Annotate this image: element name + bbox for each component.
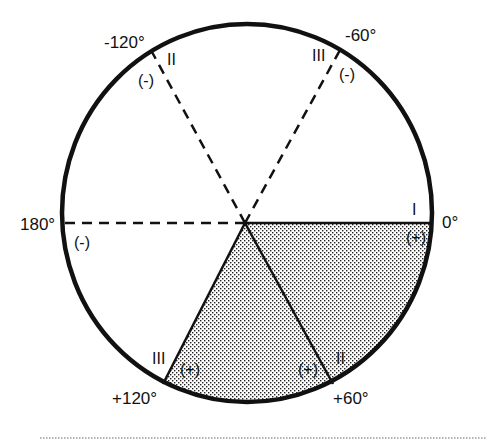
sign-label-180: (-) bbox=[74, 234, 90, 251]
phasor-circle-diagram: -120° -60° 180° 0° +120° +60° II III I I… bbox=[0, 0, 486, 440]
line-minus-120 bbox=[152, 52, 245, 223]
angle-label-180: 180° bbox=[20, 215, 55, 234]
sign-label-0: (+) bbox=[406, 229, 426, 246]
sign-label-plus-120: (+) bbox=[180, 361, 200, 378]
angle-label-minus-120: -120° bbox=[104, 33, 145, 52]
roman-label-minus-60: III bbox=[312, 47, 325, 64]
center-point bbox=[243, 221, 248, 226]
angle-label-plus-60: +60° bbox=[333, 389, 369, 408]
roman-label-plus-120: III bbox=[152, 350, 165, 367]
angle-label-0: 0° bbox=[442, 213, 458, 232]
sign-label-plus-60: (+) bbox=[298, 361, 318, 378]
roman-label-minus-120: II bbox=[167, 51, 176, 68]
sign-label-minus-120: (-) bbox=[138, 72, 154, 89]
sign-label-minus-60: (-) bbox=[339, 66, 355, 83]
angle-label-minus-60: -60° bbox=[345, 26, 376, 45]
line-minus-60 bbox=[245, 50, 340, 223]
roman-label-plus-60: II bbox=[336, 350, 345, 367]
angle-label-plus-120: +120° bbox=[112, 389, 157, 408]
roman-label-0: I bbox=[412, 201, 416, 218]
